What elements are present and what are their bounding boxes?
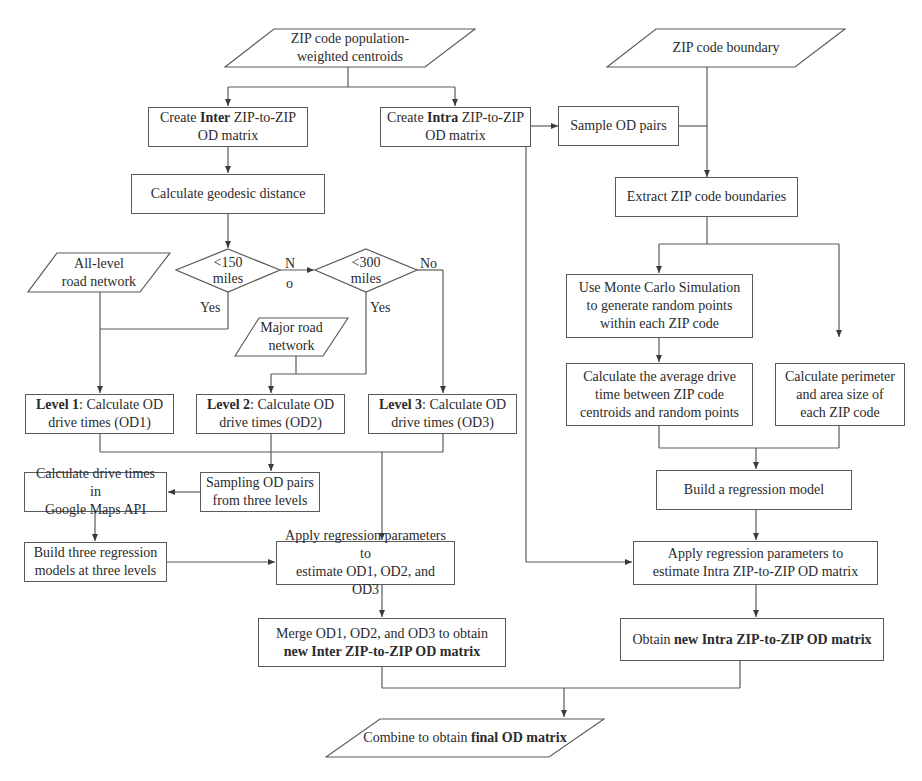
- label-text: ZIP-to-ZIP: [458, 110, 524, 125]
- label-line: Major road: [260, 320, 323, 335]
- label-text: Sample OD pairs: [570, 117, 666, 135]
- label-line: estimate Intra ZIP-to-ZIP OD matrix: [653, 564, 859, 579]
- build-regression-model: Build a regression model: [656, 470, 852, 510]
- decision-under-150-miles: <150miles: [175, 248, 281, 293]
- label-line: ZIP code boundary: [673, 40, 780, 55]
- merge-od-levels: Merge OD1, OD2, and OD3 to obtainnew Int…: [258, 618, 506, 667]
- label-line: from three levels: [213, 493, 308, 508]
- label-text: drive times (OD2): [219, 415, 322, 430]
- calculate-perimeter-area: Calculate perimeterand area size ofeach …: [775, 363, 905, 426]
- input-zip-boundary: ZIP code boundary: [606, 28, 846, 68]
- label-line: to generate random points: [587, 298, 733, 313]
- input-zip-centroids: ZIP code population-weighted centroids: [224, 28, 476, 68]
- label-line: centroids and random points: [580, 405, 739, 420]
- label-line: Calculate the average drive: [583, 369, 736, 384]
- label-text: Calculate geodesic distance: [151, 185, 306, 203]
- label-line: estimate OD1, OD2, and OD3: [296, 564, 435, 597]
- label-text: Build a regression model: [684, 481, 824, 499]
- level-1-od-drive-times: Level 1: Calculate ODdrive times (OD1): [25, 394, 174, 434]
- label-text: : Calculate OD: [250, 397, 334, 412]
- label-text: drive times (OD3): [391, 415, 494, 430]
- input-all-level-road-network: All-levelroad network: [27, 252, 171, 293]
- label-line: Use Monte Carlo Simulation: [579, 280, 740, 295]
- label-line: network: [269, 338, 315, 353]
- label-bold: Level 2: [207, 397, 250, 412]
- label-bold: Level 1: [36, 397, 79, 412]
- label-line: road network: [62, 274, 136, 289]
- label-bold: Intra: [427, 110, 458, 125]
- label-line: models at three levels: [35, 563, 157, 578]
- label-text: Create: [160, 110, 200, 125]
- label-bold: final OD matrix: [471, 730, 567, 745]
- decision2-yes-label: Yes: [370, 300, 390, 316]
- label-line: Google Maps API: [45, 502, 146, 517]
- label-line: <150: [214, 255, 243, 270]
- create-intra-od-matrix: Create Intra ZIP-to-ZIPOD matrix: [380, 107, 531, 147]
- input-major-road-network: Major roadnetwork: [234, 317, 349, 357]
- output-final-od-matrix: Combine to obtain final OD matrix: [325, 718, 605, 758]
- label-text: OD matrix: [425, 128, 485, 143]
- extract-zip-boundaries: Extract ZIP code boundaries: [615, 177, 798, 217]
- label-bold: Level 3: [379, 397, 422, 412]
- decision1-yes-label: Yes: [200, 300, 220, 316]
- calculate-google-maps-drive-times: Calculate drive times inGoogle Maps API: [24, 472, 167, 512]
- label-line: Apply regression parameters to: [285, 528, 446, 561]
- label-line: All-level: [74, 256, 124, 271]
- level-2-od-drive-times: Level 2: Calculate ODdrive times (OD2): [196, 394, 345, 434]
- calculate-average-drive-time: Calculate the average drivetime between …: [566, 363, 753, 426]
- apply-regression-inter: Apply regression parameters toestimate O…: [276, 541, 455, 585]
- label-text: ZIP-to-ZIP: [230, 110, 296, 125]
- label-line: miles: [213, 271, 243, 286]
- level-3-od-drive-times: Level 3: Calculate ODdrive times (OD3): [368, 394, 517, 434]
- obtain-new-intra-od-matrix: Obtain new Intra ZIP-to-ZIP OD matrix: [620, 618, 884, 661]
- label-text: OD matrix: [198, 128, 258, 143]
- sampling-od-pairs-three-levels: Sampling OD pairsfrom three levels: [200, 472, 320, 512]
- label-bold: new Intra ZIP-to-ZIP OD matrix: [674, 632, 872, 647]
- label-text: drive times (OD1): [48, 415, 151, 430]
- decision2-no-label: No: [420, 256, 437, 272]
- label-bold: new Inter ZIP-to-ZIP OD matrix: [284, 644, 481, 659]
- label-line: Sampling OD pairs: [206, 475, 314, 490]
- label-line: Apply regression parameters to: [668, 546, 843, 561]
- label-line: <300: [352, 255, 381, 270]
- label-line: Build three regression: [34, 545, 158, 560]
- label-line: time between ZIP code: [595, 387, 724, 402]
- label-line: within each ZIP code: [600, 316, 719, 331]
- label-line: Calculate perimeter: [785, 369, 895, 384]
- label-text: : Calculate OD: [422, 397, 506, 412]
- label-line: ZIP code population-: [291, 31, 409, 46]
- create-inter-od-matrix: Create Inter ZIP-to-ZIPOD matrix: [148, 107, 308, 147]
- label-text: Obtain: [632, 632, 674, 647]
- apply-regression-intra: Apply regression parameters toestimate I…: [633, 541, 878, 585]
- label-line: miles: [351, 271, 381, 286]
- label-line: Calculate drive times in: [36, 466, 155, 499]
- label-text: Create: [387, 110, 427, 125]
- decision1-no-label-wrap: o: [286, 276, 293, 292]
- build-three-regression-models: Build three regressionmodels at three le…: [24, 542, 167, 582]
- label-line: each ZIP code: [800, 405, 880, 420]
- label-line: weighted centroids: [297, 49, 403, 64]
- label-text: : Calculate OD: [79, 397, 163, 412]
- label-text: Combine to obtain: [363, 730, 471, 745]
- decision1-no-label: N: [285, 256, 295, 272]
- label-bold: Inter: [200, 110, 230, 125]
- flowchart-canvas: ZIP code population-weighted centroids Z…: [0, 0, 922, 781]
- label-line: Merge OD1, OD2, and OD3 to obtain: [276, 626, 488, 641]
- label-line: and area size of: [796, 387, 883, 402]
- monte-carlo-simulation: Use Monte Carlo Simulationto generate ra…: [566, 274, 753, 338]
- sample-od-pairs: Sample OD pairs: [558, 106, 679, 146]
- label-text: Extract ZIP code boundaries: [627, 188, 786, 206]
- decision-under-300-miles: <300miles: [314, 248, 418, 293]
- calculate-geodesic-distance: Calculate geodesic distance: [131, 174, 325, 214]
